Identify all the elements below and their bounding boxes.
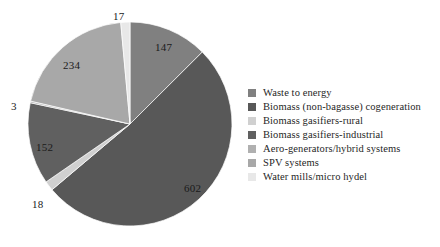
pie-slice-group — [28, 22, 232, 226]
data-label-waste-to-energy: 147 — [155, 42, 172, 53]
legend-item-label: Biomass gasifiers-rural — [263, 116, 363, 127]
pie-chart-figure: 17 147 234 3 152 18 602 Waste to energyB… — [0, 0, 440, 247]
data-label-spv-systems: 234 — [63, 60, 80, 71]
data-label-biomass-cogeneration: 602 — [184, 183, 201, 194]
legend-item-label: Aero-generators/hybrid systems — [263, 144, 400, 155]
legend-swatch-icon — [248, 89, 256, 97]
legend-swatch-icon — [248, 145, 256, 153]
legend-item-label: SPV systems — [263, 158, 319, 169]
data-label-biomass-gasifiers-rural: 18 — [32, 199, 43, 210]
legend-swatch-icon — [248, 131, 256, 139]
legend: Waste to energyBiomass (non-bagasse) cog… — [248, 86, 438, 184]
legend-item[interactable]: Biomass gasifiers-industrial — [248, 128, 438, 142]
legend-item-label: Waste to energy — [263, 88, 332, 99]
legend-swatch-icon — [248, 117, 256, 125]
legend-swatch-icon — [248, 173, 256, 181]
legend-item[interactable]: SPV systems — [248, 156, 438, 170]
legend-item-label: Biomass gasifiers-industrial — [263, 130, 383, 141]
legend-item[interactable]: Waste to energy — [248, 86, 438, 100]
legend-item[interactable]: Biomass gasifiers-rural — [248, 114, 438, 128]
legend-swatch-icon — [248, 159, 256, 167]
legend-item-label: Biomass (non-bagasse) cogeneration — [263, 102, 421, 113]
legend-item[interactable]: Biomass (non-bagasse) cogeneration — [248, 100, 438, 114]
data-label-water-mills: 17 — [113, 11, 124, 22]
legend-item-label: Water mills/micro hydel — [263, 172, 367, 183]
legend-item[interactable]: Aero-generators/hybrid systems — [248, 142, 438, 156]
data-label-aero-generators: 3 — [11, 101, 17, 112]
pie-chart-area — [27, 21, 233, 227]
data-label-biomass-gasifiers-industrial: 152 — [36, 142, 53, 153]
legend-item[interactable]: Water mills/micro hydel — [248, 170, 438, 184]
legend-swatch-icon — [248, 103, 256, 111]
pie-svg — [27, 21, 233, 227]
